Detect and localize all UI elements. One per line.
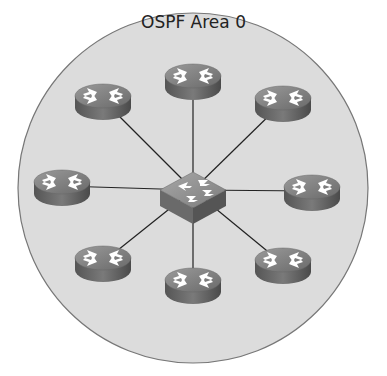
router-top-left-icon (75, 84, 131, 120)
router-right-icon (284, 175, 340, 211)
router-bottom-left-icon (75, 246, 131, 282)
router-bottom-right-icon (255, 248, 311, 284)
ospf-topology-diagram (0, 0, 387, 376)
router-bottom-icon (165, 268, 221, 304)
area-label: OSPF Area 0 (0, 12, 387, 32)
router-top-right-icon (255, 86, 311, 122)
router-top-icon (165, 64, 221, 100)
router-left-icon (34, 170, 90, 206)
